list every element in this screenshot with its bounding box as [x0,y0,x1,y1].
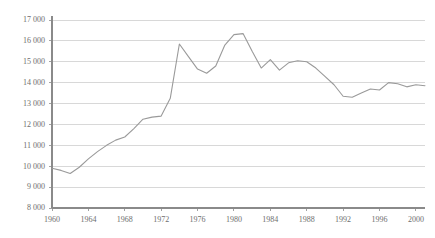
y-axis-ticks-group: 8 0009 00010 00011 00012 00013 00014 000… [23,15,52,212]
x-axis-tick-label: 1988 [299,215,315,224]
y-axis-tick-label: 8 000 [27,203,45,212]
y-axis-tick-label: 9 000 [27,182,45,191]
y-axis-tick-label: 11 000 [23,141,45,150]
x-axis-tick-label: 1984 [262,215,278,224]
x-axis-tick-label: 1960 [44,215,60,224]
chart-container: 8 0009 00010 00011 00012 00013 00014 000… [0,0,435,238]
y-axis-tick-label: 15 000 [23,57,45,66]
y-axis-tick-label: 17 000 [23,15,45,24]
x-axis-ticks-group: 1960196419681972197619801984198819921996… [44,208,424,224]
x-axis-tick-label: 1992 [335,215,351,224]
x-axis-tick-label: 1968 [117,215,133,224]
line-chart: 8 0009 00010 00011 00012 00013 00014 000… [0,0,435,238]
x-axis-tick-label: 1976 [190,215,206,224]
x-axis-tick-label: 1980 [226,215,242,224]
y-axis-tick-label: 14 000 [23,78,45,87]
x-axis-tick-label: 2000 [408,215,424,224]
y-axis-tick-label: 10 000 [23,162,45,171]
y-axis-tick-label: 13 000 [23,99,45,108]
y-axis-tick-label: 12 000 [23,120,45,129]
gridlines-group [52,20,425,187]
y-axis-tick-label: 16 000 [23,36,45,45]
x-axis-tick-label: 1964 [80,215,96,224]
x-axis-tick-label: 1996 [372,215,388,224]
x-axis-tick-label: 1972 [153,215,169,224]
